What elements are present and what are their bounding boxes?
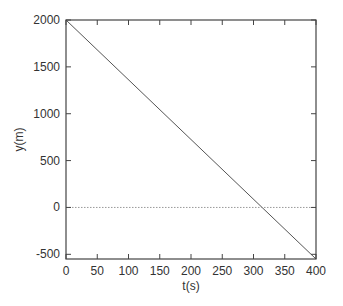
y-tick-label: 1000 [33,107,60,121]
x-tick-label: 200 [181,264,201,278]
x-tick-label: 50 [91,264,105,278]
x-tick-label: 150 [150,264,170,278]
x-tick-label: 0 [63,264,70,278]
y-tick-label: 500 [40,154,60,168]
x-tick-label: 300 [243,264,263,278]
plot-area: 050100150200250300350400-500050010001500… [33,13,326,278]
y-axis-title: y(m) [12,128,26,152]
y-tick-label: 1500 [33,60,60,74]
x-tick-label: 350 [275,264,295,278]
x-axis-title: t(s) [182,279,199,293]
line-chart: 050100150200250300350400-500050010001500… [0,0,343,306]
x-tick-label: 250 [212,264,232,278]
y-tick-label: 0 [53,200,60,214]
y-tick-label: -500 [36,247,60,261]
y-tick-label: 2000 [33,13,60,27]
x-tick-label: 400 [306,264,326,278]
data-line [66,20,316,259]
x-tick-label: 100 [118,264,138,278]
